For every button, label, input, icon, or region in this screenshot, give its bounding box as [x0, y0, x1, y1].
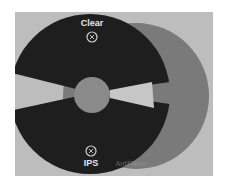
diagram-stage: Clear IPS AntiFlicker: [0, 0, 227, 190]
disc-diagram: Clear IPS AntiFlicker: [0, 0, 227, 190]
label-bottom: IPS: [84, 158, 99, 168]
label-bottom-right: AntiFlicker: [116, 160, 149, 167]
label-top: Clear: [81, 18, 104, 28]
center-hub: [74, 77, 110, 113]
